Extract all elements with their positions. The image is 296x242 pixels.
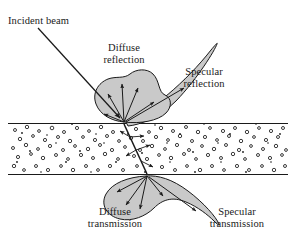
label-specular-transmission-line2: transmission <box>196 218 278 230</box>
label-diffuse-reflection-line2: reflection <box>96 54 152 66</box>
label-incident-beam: Incident beam <box>8 15 69 27</box>
label-specular-transmission-line1: Specular <box>196 206 278 218</box>
label-specular-reflection: Specular reflection <box>175 66 233 89</box>
label-diffuse-transmission: Diffuse transmission <box>76 206 154 229</box>
label-diffuse-reflection-line1: Diffuse <box>96 42 152 54</box>
label-specular-reflection-line1: Specular <box>175 66 233 78</box>
label-specular-transmission: Specular transmission <box>196 206 278 229</box>
scattering-medium-slab <box>8 123 288 174</box>
label-specular-reflection-line2: reflection <box>175 78 233 90</box>
label-diffuse-reflection: Diffuse reflection <box>96 42 152 65</box>
label-diffuse-transmission-line2: transmission <box>76 218 154 230</box>
label-diffuse-transmission-line1: Diffuse <box>76 206 154 218</box>
scattering-diagram-figure: Incident beam Diffuse reflection Specula… <box>0 0 296 242</box>
